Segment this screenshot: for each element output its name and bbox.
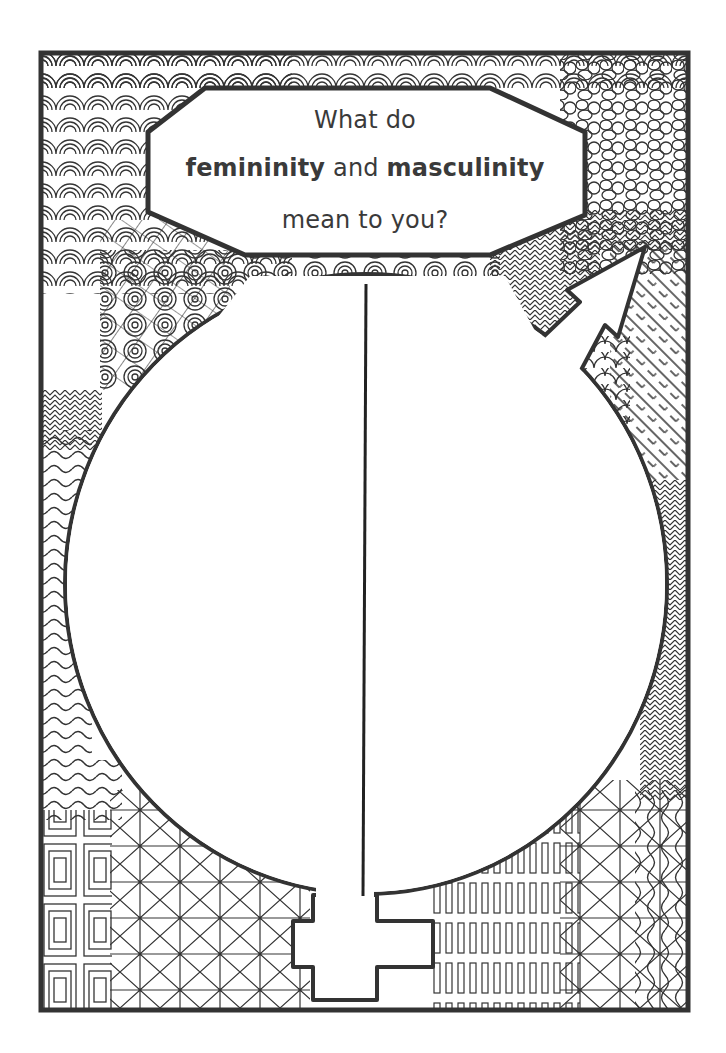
prompt-keyword-femininity: femininity	[185, 154, 325, 182]
prompt-line-3: mean to you?	[150, 206, 580, 234]
prompt-line-2: femininity and masculinity	[150, 154, 580, 182]
prompt-conjunction: and	[325, 154, 386, 182]
prompt-text-3: mean to you?	[282, 206, 449, 234]
prompt-line-1: What do	[150, 106, 580, 134]
prompt-text-1: What do	[314, 106, 416, 134]
writing-area-left[interactable]	[80, 330, 355, 850]
prompt-keyword-masculinity: masculinity	[387, 154, 545, 182]
female-cross-icon	[293, 895, 433, 1000]
writing-area-right[interactable]	[378, 330, 653, 850]
